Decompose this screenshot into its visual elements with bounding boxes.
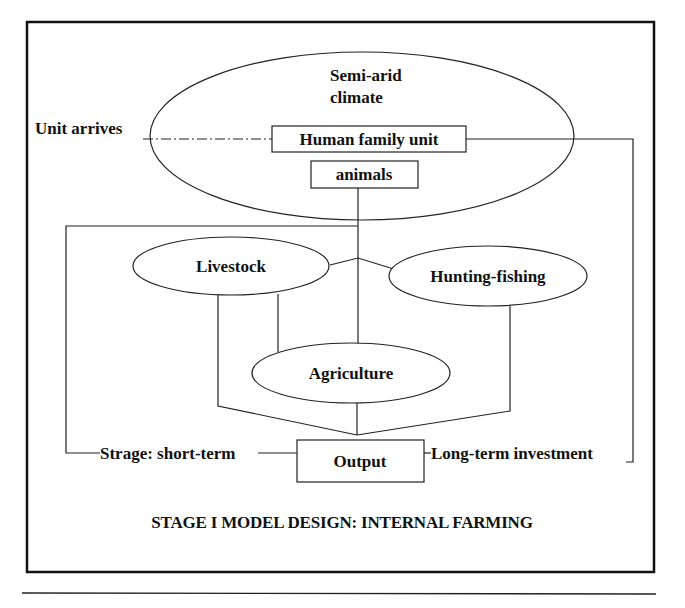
climate-label-line1: Semi-arid (330, 66, 402, 85)
page-separator (22, 593, 656, 594)
livestock-label: Livestock (196, 257, 266, 276)
unit-arrives-label: Unit arrives (35, 119, 123, 138)
agriculture-label: Agriculture (309, 364, 394, 383)
diagram-title: STAGE I MODEL DESIGN: INTERNAL FARMING (151, 513, 532, 532)
long-term-investment-label: Long-term investment (431, 444, 593, 463)
hunting-fishing-label: Hunting-fishing (430, 267, 546, 286)
human-family-unit-label: Human family unit (300, 130, 439, 149)
storage-short-term-label: Strage: short-term (100, 444, 235, 463)
livestock-hunting-link (330, 258, 397, 270)
animals-label: animals (336, 165, 393, 184)
climate-label-line2: climate (330, 88, 383, 107)
output-label: Output (334, 452, 387, 471)
diagram-canvas: Semi-arid climate Unit arrives Human fam… (0, 0, 685, 608)
